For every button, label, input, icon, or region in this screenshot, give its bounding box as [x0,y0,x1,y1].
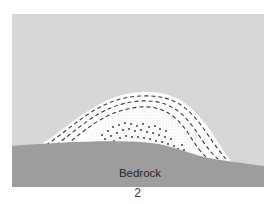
figure-number: 2 [0,186,275,200]
diagram-figure: Bedrock [0,0,275,204]
diagram-canvas: Bedrock [0,0,275,204]
bedrock-label: Bedrock [119,167,161,179]
